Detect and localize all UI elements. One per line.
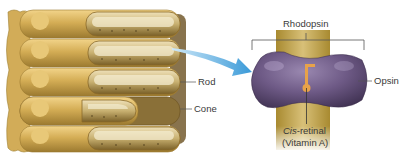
rhodopsin-label: Rhodopsin [283,19,328,29]
rod-cell-5 [20,126,180,152]
cone-cell [20,97,180,125]
rod-cell-1 [20,10,180,38]
rod-label: Rod [198,77,215,87]
opsin-label: Opsin [374,76,399,86]
vitamin-a-label: (Vitamin A) [282,138,328,148]
retinal-suffix: -retinal [297,125,326,136]
cis-retinal-label: Cis-retinal [283,126,326,136]
rod-cone-rhodopsin-diagram: Rod Cone Rhodopsin Opsin Cis-retinal (Vi… [0,0,414,160]
photoreceptor-stack [7,10,197,152]
rod-cell-2 [20,39,180,67]
opsin-protein [251,52,367,108]
rod-cell-3 [20,68,180,96]
cis-prefix: Cis [283,125,297,136]
cone-label: Cone [194,104,217,114]
